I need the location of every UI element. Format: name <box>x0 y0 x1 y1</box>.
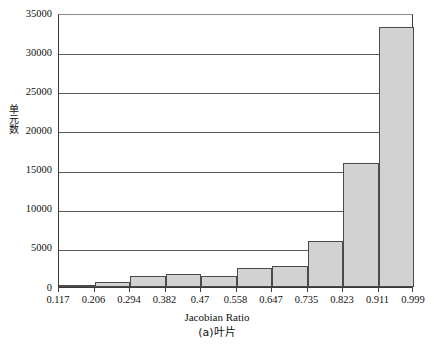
x-tick-mark <box>271 288 272 292</box>
y-tick-label: 0 <box>8 283 52 294</box>
plot-inner <box>59 15 412 287</box>
x-tick-mark <box>342 288 343 292</box>
y-tick-label: 20000 <box>8 126 52 137</box>
bar <box>308 241 344 287</box>
x-tick-mark <box>236 288 237 292</box>
x-tick-mark <box>412 288 413 292</box>
histogram-figure: 单元数 05000100001500020000250003000035000 … <box>0 0 434 347</box>
y-tick-label: 25000 <box>8 87 52 98</box>
gridline <box>59 54 412 55</box>
bar <box>379 27 415 287</box>
bar <box>130 276 166 287</box>
y-tick-label: 30000 <box>8 48 52 59</box>
y-tick-label: 10000 <box>8 204 52 215</box>
x-tick-mark <box>165 288 166 292</box>
x-axis-title: Jacobian Ratio <box>0 311 434 324</box>
bar <box>201 276 237 287</box>
x-tick-mark <box>200 288 201 292</box>
x-axis-tick-labels: 0.1170.2060.2940.3820.470.5580.6470.7350… <box>0 294 434 310</box>
x-tick-mark <box>307 288 308 292</box>
x-tick-mark <box>378 288 379 292</box>
x-tick-mark <box>129 288 130 292</box>
bar <box>166 274 202 287</box>
x-tick-mark <box>58 288 59 292</box>
gridline <box>59 93 412 94</box>
x-tick-label: 0.999 <box>391 294 434 306</box>
y-tick-label: 35000 <box>8 9 52 20</box>
y-tick-label: 15000 <box>8 165 52 176</box>
bar <box>237 268 273 287</box>
bar <box>95 282 131 287</box>
gridline <box>59 132 412 133</box>
plot-area <box>58 14 413 288</box>
y-tick-label: 5000 <box>8 243 52 254</box>
x-tick-mark <box>94 288 95 292</box>
bar <box>272 266 308 287</box>
figure-caption: (a)叶片 <box>0 326 434 339</box>
bar <box>343 163 379 287</box>
bar <box>59 285 95 287</box>
